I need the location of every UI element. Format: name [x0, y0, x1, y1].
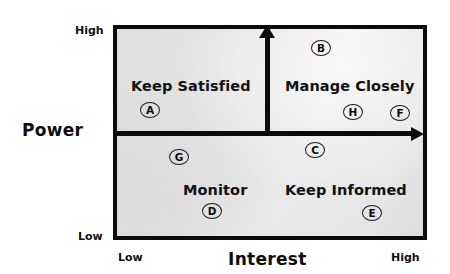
- quadrant-label-monitor: Monitor: [183, 183, 247, 198]
- interest-axis-line: [113, 131, 413, 136]
- x-axis-high-label: High: [391, 252, 420, 263]
- x-axis-low-label: Low: [118, 252, 143, 263]
- y-axis-title: Power: [22, 122, 83, 139]
- quadrant-label-keep-informed: Keep Informed: [285, 183, 407, 198]
- power-interest-grid: Power High Low Keep Satisfied Manage Clo…: [0, 0, 450, 274]
- stakeholder-marker-e[interactable]: E: [362, 205, 382, 221]
- stakeholder-marker-c[interactable]: C: [305, 142, 325, 158]
- power-axis-arrow-icon: [259, 25, 275, 38]
- stakeholder-marker-b[interactable]: B: [311, 40, 331, 56]
- stakeholder-marker-d[interactable]: D: [202, 203, 222, 219]
- x-axis-title: Interest: [228, 251, 307, 268]
- quadrant-label-keep-satisfied: Keep Satisfied: [131, 79, 251, 94]
- stakeholder-marker-a[interactable]: A: [140, 102, 160, 118]
- stakeholder-marker-g[interactable]: G: [169, 149, 189, 165]
- y-axis-low-label: Low: [78, 231, 103, 242]
- y-axis-high-label: High: [75, 25, 104, 36]
- stakeholder-marker-f[interactable]: F: [390, 105, 410, 121]
- stakeholder-marker-h[interactable]: H: [343, 104, 363, 120]
- quadrant-label-manage-closely: Manage Closely: [285, 79, 414, 94]
- interest-axis-arrow-icon: [411, 127, 424, 141]
- power-axis-line: [265, 28, 270, 136]
